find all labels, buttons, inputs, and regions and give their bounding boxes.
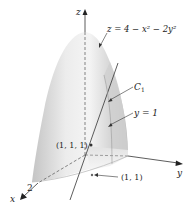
y-axis-arrow-icon — [176, 161, 184, 167]
plane-equation-label: y = 1 — [133, 108, 158, 118]
paraboloid-diagram: z y x 2 z = 4 − x² − 2y² C1 y = 1 (1, 1,… — [0, 0, 195, 215]
point-1-1 — [91, 174, 93, 176]
z-axis-arrow-icon — [83, 9, 88, 15]
point-3d-label: (1, 1, 1) — [56, 141, 88, 150]
surface-equation-label: z = 4 − x² − 2y² — [106, 24, 177, 34]
x-tick-2: 2 — [27, 183, 33, 193]
plane-y1-region — [86, 146, 128, 170]
y-axis — [128, 156, 178, 163]
leader-point-2d — [96, 175, 118, 177]
y-axis-label: y — [176, 168, 183, 178]
point-1-1-1 — [90, 144, 93, 147]
x-axis-label: x — [10, 194, 15, 204]
z-axis-label: z — [75, 7, 81, 17]
curve-c1-label: C1 — [134, 82, 145, 93]
leader-point-2d-arrow-icon — [94, 173, 98, 177]
point-2d-label: (1, 1) — [121, 173, 143, 182]
curve-c1-subscript: 1 — [141, 86, 145, 93]
